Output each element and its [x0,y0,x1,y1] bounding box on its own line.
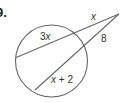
secant-diagram: 9. x 8 3x x + 2 [0,0,125,103]
label-lower-internal: x + 2 [50,74,73,85]
problem-number: 9. [0,5,7,20]
circle [16,25,88,97]
label-lower-external: 8 [101,33,107,44]
label-upper-external: x [90,11,97,22]
label-lower-internal-rest: + 2 [56,74,73,85]
label-upper-internal-var: x [45,31,52,42]
label-upper-internal: 3x [40,31,52,42]
